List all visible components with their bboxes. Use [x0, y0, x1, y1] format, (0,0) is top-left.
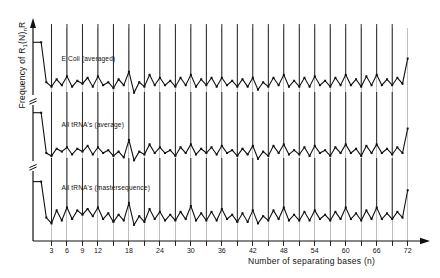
data-point [267, 219, 269, 221]
data-point [221, 77, 223, 79]
data-point [97, 75, 99, 77]
data-point [231, 214, 233, 216]
data-point [190, 205, 192, 207]
data-point [128, 71, 130, 73]
data-point [211, 77, 213, 79]
data-point [257, 89, 259, 91]
data-point [407, 189, 409, 191]
data-point [319, 152, 321, 154]
data-point [195, 153, 197, 155]
data-point [402, 83, 404, 85]
data-point [149, 208, 151, 210]
x-tick-label-66: 66 [373, 247, 381, 254]
data-point [112, 155, 114, 157]
data-point [76, 148, 78, 150]
data-point [267, 86, 269, 88]
data-point [195, 86, 197, 88]
data-point [324, 214, 326, 216]
data-point [314, 75, 316, 77]
data-point [133, 224, 135, 226]
x-tick-label-18: 18 [125, 247, 133, 254]
data-point [112, 87, 114, 89]
data-point [371, 152, 373, 154]
data-point [309, 219, 311, 221]
data-point [61, 84, 63, 86]
data-point [211, 146, 213, 148]
data-point [247, 86, 249, 88]
x-tick-label-42: 42 [249, 247, 257, 254]
data-point [272, 77, 274, 79]
data-point [241, 78, 243, 80]
data-point [71, 153, 73, 155]
data-point [355, 212, 357, 214]
data-point [340, 84, 342, 86]
data-point [324, 80, 326, 82]
data-point [123, 219, 125, 221]
data-point [267, 155, 269, 157]
x-tick-label-3: 3 [50, 247, 54, 254]
data-point [303, 77, 305, 79]
data-point [272, 209, 274, 211]
data-point [272, 145, 274, 147]
chart-plot-area [0, 0, 440, 278]
data-point [396, 211, 398, 213]
data-point [262, 215, 264, 217]
data-point [360, 155, 362, 157]
data-point [205, 84, 207, 86]
data-point [190, 74, 192, 76]
data-point [164, 219, 166, 221]
data-point [360, 86, 362, 88]
x-tick-label-36: 36 [218, 247, 226, 254]
data-point [40, 112, 42, 114]
data-point [133, 92, 135, 94]
data-point [102, 84, 104, 86]
data-point [56, 78, 58, 80]
data-point [76, 209, 78, 211]
data-point [92, 86, 94, 88]
data-point [350, 152, 352, 154]
data-point [180, 77, 182, 79]
data-point [334, 211, 336, 213]
data-point [66, 146, 68, 148]
data-point [386, 78, 388, 80]
data-point [174, 219, 176, 221]
data-point [195, 219, 197, 221]
data-point [283, 74, 285, 76]
data-point [56, 148, 58, 150]
data-point [293, 80, 295, 82]
data-point [309, 155, 311, 157]
data-point [185, 152, 187, 154]
data-point [169, 80, 171, 82]
data-point [45, 152, 47, 154]
data-point [159, 146, 161, 148]
data-point [66, 207, 68, 209]
data-point [205, 219, 207, 221]
data-point [329, 86, 331, 88]
data-point [376, 143, 378, 145]
data-point [283, 207, 285, 209]
data-point [118, 214, 120, 216]
data-point [278, 84, 280, 86]
data-point [334, 77, 336, 79]
data-point [118, 151, 120, 153]
data-point [76, 80, 78, 82]
data-point [252, 145, 254, 147]
data-point [61, 219, 63, 221]
data-point [138, 215, 140, 217]
data-point [216, 86, 218, 88]
data-point [283, 143, 285, 145]
x-tick-label-60: 60 [342, 247, 350, 254]
x-tick-label-30: 30 [187, 247, 195, 254]
data-point [169, 214, 171, 216]
data-point [355, 148, 357, 150]
data-point [185, 84, 187, 86]
data-point [371, 84, 373, 86]
data-point [381, 152, 383, 154]
data-point [97, 207, 99, 209]
data-point [402, 152, 404, 154]
data-point [319, 84, 321, 86]
data-point [211, 211, 213, 213]
data-point [391, 84, 393, 86]
data-point [112, 221, 114, 223]
data-point [365, 209, 367, 211]
